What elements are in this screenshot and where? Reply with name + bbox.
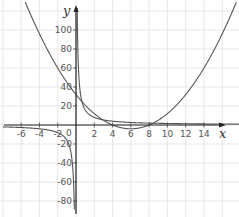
x-tick-label: 8 bbox=[146, 129, 152, 139]
x-tick-label: 2 bbox=[91, 129, 97, 139]
x-tick-label: -4 bbox=[35, 129, 44, 139]
y-tick-label: -20 bbox=[57, 139, 72, 149]
function-graph: -6-4-2246810121410080604020-20-40-60-80 … bbox=[0, 0, 239, 217]
y-tick-label: 40 bbox=[61, 82, 73, 92]
x-tick-label: -6 bbox=[17, 129, 26, 139]
y-axis-label: y bbox=[62, 3, 71, 18]
y-tick-label: 60 bbox=[61, 63, 73, 73]
x-tick-label: 6 bbox=[128, 129, 134, 139]
x-tick-label: 14 bbox=[198, 129, 210, 139]
x-tick-label: 10 bbox=[162, 129, 174, 139]
x-axis-label: x bbox=[219, 126, 227, 141]
origin-label: 0 bbox=[66, 128, 72, 138]
x-tick-label: 4 bbox=[110, 129, 116, 139]
y-tick-label: 80 bbox=[61, 44, 73, 54]
x-tick-label: -2 bbox=[53, 129, 62, 139]
series-hyperbola-right bbox=[77, 8, 239, 124]
y-tick-label: -60 bbox=[57, 177, 72, 187]
y-tick-label: 100 bbox=[55, 25, 72, 35]
y-axis-arrow bbox=[74, 5, 79, 12]
ticks: -6-4-2246810121410080604020-20-40-60-80 bbox=[17, 25, 210, 206]
y-tick-label: -80 bbox=[57, 196, 72, 206]
grid bbox=[0, 0, 239, 217]
y-tick-label: -40 bbox=[57, 158, 72, 168]
x-tick-label: 12 bbox=[180, 129, 191, 139]
y-tick-label: 20 bbox=[61, 101, 73, 111]
